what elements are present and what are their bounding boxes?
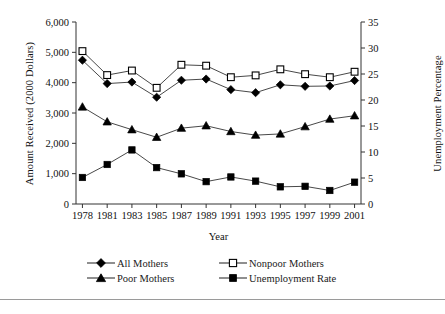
filled-square-icon bbox=[218, 272, 248, 284]
chart-legend: All Mothers Nonpoor Mothers Poor Mothers bbox=[86, 257, 376, 284]
series-poor-mothers bbox=[78, 103, 359, 141]
y-tick-label-right: 25 bbox=[368, 69, 379, 80]
y-tick-label-right: 5 bbox=[368, 173, 373, 184]
legend-item-poor-mothers[interactable]: Poor Mothers bbox=[86, 272, 218, 284]
data-point-marker bbox=[277, 184, 283, 190]
y-tick-label-right: 15 bbox=[368, 121, 379, 132]
data-point-marker bbox=[227, 74, 234, 81]
x-tick-label: 1989 bbox=[196, 210, 217, 221]
y-tick-label-right: 0 bbox=[368, 199, 373, 210]
data-point-marker bbox=[326, 74, 333, 81]
x-tick-label: 1981 bbox=[97, 210, 118, 221]
chart-figure: Amount Received (2000 Dollars) Unemploym… bbox=[0, 0, 445, 314]
y-tick-label-left: 6,000 bbox=[45, 17, 69, 28]
series-unemployment-rate bbox=[79, 147, 358, 194]
data-point-marker bbox=[178, 61, 185, 68]
y-ticks-right: 05101520253035 bbox=[361, 17, 379, 210]
legend-item-all-mothers[interactable]: All Mothers bbox=[86, 257, 218, 269]
data-point-marker bbox=[104, 161, 110, 167]
x-tick-label: 1999 bbox=[319, 210, 340, 221]
x-tick-label: 1993 bbox=[245, 210, 266, 221]
x-tick-label: 1995 bbox=[270, 210, 291, 221]
x-tick-label: 1991 bbox=[220, 210, 241, 221]
data-point-marker bbox=[153, 164, 159, 170]
y-tick-label-left: 3,000 bbox=[45, 108, 69, 119]
legend-label: Poor Mothers bbox=[117, 273, 174, 284]
data-point-marker bbox=[277, 66, 284, 73]
data-point-marker bbox=[128, 78, 136, 86]
footer-divider bbox=[0, 299, 445, 300]
y-tick-label-left: 4,000 bbox=[45, 77, 69, 88]
data-point-marker bbox=[351, 179, 357, 185]
data-point-marker bbox=[252, 89, 260, 97]
legend-item-nonpoor-mothers[interactable]: Nonpoor Mothers bbox=[218, 257, 376, 269]
legend-item-unemployment-rate[interactable]: Unemployment Rate bbox=[218, 272, 376, 284]
y-tick-label-left: 5,000 bbox=[45, 47, 69, 58]
x-tick-label: 2001 bbox=[344, 210, 365, 221]
y-tick-label-right: 20 bbox=[368, 95, 379, 106]
data-point-marker bbox=[202, 75, 210, 83]
data-point-marker bbox=[252, 72, 259, 79]
y-tick-label-left: 2,000 bbox=[45, 138, 69, 149]
data-point-marker bbox=[327, 187, 333, 193]
x-tick-label: 1983 bbox=[121, 210, 142, 221]
data-point-marker bbox=[103, 118, 111, 125]
data-point-marker bbox=[79, 48, 86, 55]
y-tick-label-left: 0 bbox=[64, 199, 69, 210]
data-point-marker bbox=[153, 84, 160, 91]
data-point-marker bbox=[129, 67, 136, 74]
legend-label: Unemployment Rate bbox=[249, 273, 336, 284]
y-tick-label-right: 30 bbox=[368, 43, 379, 54]
plot-area: 01,0002,0003,0004,0005,0006,000 05101520… bbox=[0, 0, 445, 250]
data-point-marker bbox=[350, 112, 358, 119]
x-tick-label: 1978 bbox=[72, 210, 93, 221]
data-point-marker bbox=[203, 178, 209, 184]
data-point-marker bbox=[252, 178, 258, 184]
axes bbox=[76, 22, 361, 204]
data-point-marker bbox=[276, 81, 284, 89]
data-point-marker bbox=[350, 76, 358, 84]
data-point-marker bbox=[301, 82, 309, 90]
data-point-marker bbox=[78, 103, 86, 110]
y-tick-label-left: 1,000 bbox=[45, 168, 69, 179]
x-ticks: 1978198119831985198719891991199319951997… bbox=[72, 204, 365, 221]
filled-triangle-icon bbox=[86, 272, 116, 284]
open-square-icon bbox=[218, 257, 248, 269]
data-point-marker bbox=[228, 174, 234, 180]
data-point-marker bbox=[178, 171, 184, 177]
data-point-marker bbox=[227, 86, 235, 94]
data-point-marker bbox=[79, 174, 85, 180]
series-layer bbox=[78, 48, 359, 194]
data-point-marker bbox=[302, 183, 308, 189]
data-point-marker bbox=[202, 122, 210, 129]
x-tick-label: 1997 bbox=[295, 210, 316, 221]
x-tick-label: 1985 bbox=[146, 210, 167, 221]
series-all-mothers bbox=[78, 56, 358, 101]
y-tick-label-right: 35 bbox=[368, 17, 379, 28]
data-point-marker bbox=[129, 147, 135, 153]
data-point-marker bbox=[326, 82, 334, 90]
y-tick-label-right: 10 bbox=[368, 147, 379, 158]
data-point-marker bbox=[177, 76, 185, 84]
y-ticks-left: 01,0002,0003,0004,0005,0006,000 bbox=[45, 17, 76, 210]
filled-diamond-icon bbox=[86, 257, 116, 269]
data-point-marker bbox=[351, 68, 358, 75]
data-point-marker bbox=[302, 71, 309, 78]
legend-label: All Mothers bbox=[117, 258, 168, 269]
data-point-marker bbox=[104, 72, 111, 79]
x-tick-label: 1987 bbox=[171, 210, 192, 221]
data-point-marker bbox=[153, 93, 161, 101]
legend-label: Nonpoor Mothers bbox=[249, 258, 324, 269]
data-point-marker bbox=[203, 62, 210, 69]
